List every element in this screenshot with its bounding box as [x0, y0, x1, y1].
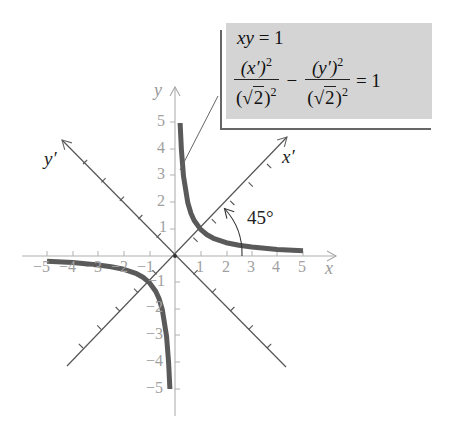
y-tick-label: −4: [146, 352, 163, 370]
x-tick-label: −2: [111, 258, 128, 276]
x-tick-label: 4: [272, 258, 280, 276]
radicand: 2: [324, 86, 336, 108]
fraction-y-prime: (y′)2 (√2)2: [305, 52, 350, 109]
y-prime-axis-label: y′: [44, 148, 57, 170]
x-prime-term: (x′): [241, 57, 266, 78]
angle-label: 45°: [247, 207, 274, 229]
exponent: 2: [337, 55, 343, 69]
exponent: 2: [342, 85, 348, 99]
x-tick-label: −3: [85, 258, 102, 276]
y-tick-label: −2: [146, 298, 163, 316]
y-tick-label: 4: [157, 139, 165, 157]
y-tick-label: −1: [148, 272, 165, 290]
y-tick-label: 2: [157, 192, 165, 210]
x-tick-label: 1: [196, 258, 204, 276]
y-tick-label: −5: [146, 379, 163, 397]
exponent: 2: [266, 55, 272, 69]
radicand: 2: [253, 86, 265, 108]
x-tick-label: 2: [222, 258, 230, 276]
y-tick-label: 3: [157, 165, 165, 183]
hyperbola-branch-q1: [180, 123, 303, 251]
callout-border-bottom: [220, 128, 431, 130]
angle-arc: [225, 209, 243, 257]
x-axis-label: x: [325, 258, 333, 279]
fraction-x-prime-denominator: (√2)2: [234, 80, 279, 109]
exponent: 2: [271, 85, 277, 99]
equation-xy: xy = 1: [237, 27, 284, 49]
origin-point: [173, 254, 177, 258]
equation-xy-rhs: = 1: [259, 27, 284, 48]
x-tick-label: 5: [298, 258, 306, 276]
x-prime-axis-label: x′: [282, 146, 295, 168]
equation-rhs: = 1: [356, 70, 381, 92]
callout-leader-line: [180, 96, 218, 170]
fraction-x-prime: (x′)2 (√2)2: [234, 52, 279, 109]
y-tick-label: 5: [157, 112, 165, 130]
x-tick-label: −5: [33, 258, 50, 276]
x-prime-axis: [67, 137, 287, 366]
fraction-y-prime-numerator: (y′)2: [310, 52, 345, 79]
x-tick-label: 3: [247, 258, 255, 276]
sqrt-symbol: √2: [242, 87, 264, 109]
minus-operator: −: [287, 70, 298, 92]
equation-xy-lhs: xy: [237, 27, 254, 48]
sqrt-symbol: √2: [314, 87, 336, 109]
fraction-y-prime-denominator: (√2)2: [305, 80, 350, 109]
callout-border-left: [220, 30, 222, 129]
y-tick-label: 1: [159, 218, 167, 236]
equation-rotated: (x′)2 (√2)2 − (y′)2 (√2)2 = 1: [234, 52, 381, 109]
y-prime-term: (y′): [312, 57, 337, 78]
y-tick-label: −3: [146, 325, 163, 343]
y-axis-label: y: [154, 80, 162, 101]
fraction-x-prime-numerator: (x′)2: [239, 52, 274, 79]
x-tick-label: −4: [59, 258, 76, 276]
